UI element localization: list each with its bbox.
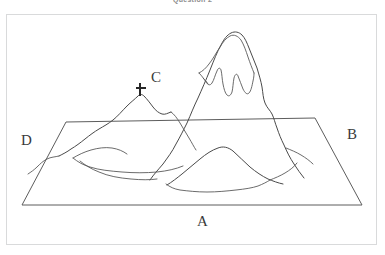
front-hill-base-contour bbox=[166, 163, 297, 192]
left-hill-outline bbox=[59, 95, 171, 157]
base-plane bbox=[22, 118, 362, 205]
main-mountain-outline bbox=[150, 32, 304, 180]
valley-contour-line bbox=[80, 161, 157, 180]
figure-label-d: D bbox=[21, 133, 32, 148]
terrain-figure-drawing bbox=[0, 0, 385, 255]
front-hill-outline bbox=[167, 147, 283, 185]
summit-cross-icon bbox=[135, 83, 146, 96]
figure-label-b: B bbox=[347, 127, 357, 142]
cross-vertical-bar bbox=[139, 83, 141, 96]
figure-label-a: A bbox=[197, 214, 208, 229]
main-mountain-snowcap bbox=[199, 35, 254, 96]
main-mountain-right-skirt bbox=[286, 148, 313, 164]
plain-contour-line bbox=[73, 148, 183, 173]
cross-horizontal-bar bbox=[136, 87, 146, 89]
page-root: Question 2 bbox=[0, 0, 385, 255]
figure-label-c: C bbox=[151, 70, 161, 85]
